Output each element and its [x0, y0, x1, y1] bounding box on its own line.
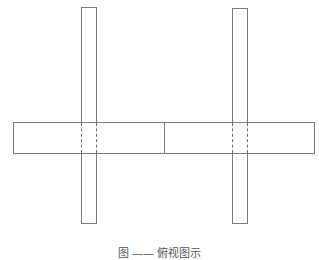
- figure-caption: 图 —— 俯视图示: [0, 244, 319, 260]
- left-vertical-post: [81, 7, 97, 224]
- beam-divider: [164, 122, 165, 154]
- right-post-hidden-edge-left: [232, 123, 233, 153]
- left-post-hidden-edge-left: [81, 123, 82, 153]
- right-vertical-post: [232, 8, 248, 224]
- right-post-hidden-edge-right: [247, 123, 248, 153]
- left-post-hidden-edge-right: [96, 123, 97, 153]
